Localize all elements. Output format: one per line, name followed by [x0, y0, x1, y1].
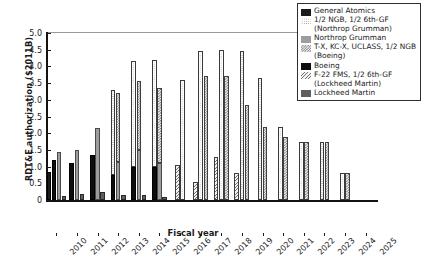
- bar[interactable]: [299, 142, 304, 200]
- bar-segment: [198, 51, 203, 200]
- bar[interactable]: [90, 155, 95, 200]
- bar[interactable]: [157, 88, 162, 200]
- bar[interactable]: [304, 142, 309, 200]
- y-tick-label: 3.0: [29, 95, 42, 104]
- bar-segment: [219, 50, 224, 200]
- x-tick-label: 2020: [275, 236, 296, 257]
- bar-segment: [157, 163, 162, 200]
- bar-segment: [52, 160, 56, 200]
- bar[interactable]: [62, 196, 66, 200]
- x-tick-mark: [56, 233, 57, 236]
- bar-segment: [263, 127, 268, 200]
- bar-segment: [69, 163, 74, 200]
- legend-item[interactable]: F-22 FMS, 1/2 6th-GF: [301, 71, 417, 80]
- legend-label: F-22 FMS, 1/2 6th-GF: [314, 71, 392, 80]
- bar-segment: [137, 81, 142, 149]
- bar[interactable]: [224, 76, 229, 200]
- bar[interactable]: [75, 150, 80, 200]
- bar-segment: [57, 152, 61, 200]
- bar-segment: [299, 142, 304, 200]
- bar-segment: [214, 157, 219, 200]
- bar[interactable]: [193, 182, 198, 200]
- bar[interactable]: [278, 127, 283, 200]
- bar-segment: [142, 195, 147, 200]
- legend-item[interactable]: Lockheed Martin: [301, 89, 417, 98]
- x-tick-mark: [345, 233, 346, 236]
- bar-segment: [162, 197, 167, 200]
- bar-segment: [234, 173, 239, 200]
- bar[interactable]: [111, 90, 116, 200]
- bar[interactable]: [325, 142, 330, 200]
- x-tick-label: 2015: [171, 236, 192, 257]
- bar[interactable]: [283, 137, 288, 200]
- bar[interactable]: [69, 163, 74, 200]
- bar[interactable]: [52, 160, 56, 200]
- bar-group: [46, 33, 67, 200]
- y-tick-label: 0: [37, 196, 42, 205]
- bar[interactable]: [116, 93, 121, 200]
- bar[interactable]: [137, 81, 142, 200]
- bar-group: [149, 33, 170, 200]
- bar-segment: [320, 142, 325, 200]
- y-tick-label: 1.0: [29, 162, 42, 171]
- bar[interactable]: [198, 51, 203, 200]
- bar-segment: [157, 88, 162, 163]
- bar-segment: [62, 196, 66, 200]
- bar[interactable]: [131, 61, 136, 200]
- chart-legend: General Atomics1/2 NGB, 1/2 6th-GF(North…: [297, 3, 421, 101]
- x-tick-label: 2024: [357, 236, 378, 257]
- bar[interactable]: [80, 194, 85, 200]
- x-tick-mark: [98, 233, 99, 236]
- legend-swatch: [301, 72, 311, 79]
- bar-group: [87, 33, 108, 200]
- bar-segment: [304, 142, 309, 200]
- x-tick-mark: [263, 233, 264, 236]
- bar-segment: [340, 173, 345, 200]
- bar[interactable]: [162, 197, 167, 200]
- legend-item[interactable]: Boeing: [301, 62, 417, 71]
- bar[interactable]: [95, 128, 100, 200]
- bar[interactable]: [240, 51, 245, 200]
- bar[interactable]: [320, 142, 325, 200]
- x-tick-label: 2013: [130, 236, 151, 257]
- x-tick-mark: [118, 233, 119, 236]
- bar-segment: [193, 182, 198, 200]
- bar[interactable]: [204, 76, 209, 200]
- bar-segment: [131, 167, 136, 200]
- bar[interactable]: [57, 152, 61, 200]
- bar-segment: [75, 150, 80, 200]
- bar-segment: [240, 51, 245, 200]
- legend-label: Boeing: [314, 62, 340, 71]
- bar[interactable]: [245, 105, 250, 200]
- bar[interactable]: [121, 195, 126, 200]
- bar-segment: [111, 175, 116, 200]
- x-axis-line: [46, 200, 378, 202]
- bar[interactable]: [340, 173, 345, 200]
- bar[interactable]: [219, 50, 224, 200]
- bar-segment: [204, 76, 209, 200]
- bar-group: [190, 33, 211, 200]
- bar[interactable]: [258, 78, 263, 200]
- x-tick-mark: [242, 233, 243, 236]
- bar[interactable]: [263, 127, 268, 200]
- x-tick-mark: [180, 233, 181, 236]
- bar-segment: [80, 194, 85, 200]
- bar[interactable]: [180, 80, 185, 200]
- bar[interactable]: [142, 195, 147, 200]
- bar[interactable]: [100, 192, 105, 200]
- bar-segment: [325, 142, 330, 200]
- bar-segment: [90, 155, 95, 200]
- bar[interactable]: [175, 165, 180, 200]
- legend-label: Lockheed Martin: [314, 89, 375, 98]
- bar[interactable]: [234, 173, 239, 200]
- legend-swatch: [301, 45, 311, 52]
- legend-swatch: [301, 9, 311, 16]
- legend-swatch: [301, 36, 311, 43]
- x-tick-mark: [77, 233, 78, 236]
- bar[interactable]: [345, 173, 350, 200]
- bar[interactable]: [47, 172, 51, 200]
- x-tick-label: 2023: [336, 236, 357, 257]
- bar[interactable]: [214, 157, 219, 200]
- bar[interactable]: [152, 60, 157, 200]
- x-tick-label: 2010: [68, 236, 89, 257]
